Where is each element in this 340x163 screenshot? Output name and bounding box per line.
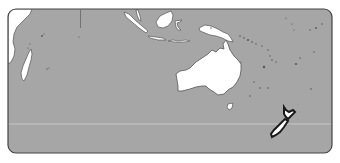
ocean — [8, 9, 332, 153]
map-container — [0, 0, 340, 163]
map-svg — [0, 0, 340, 163]
